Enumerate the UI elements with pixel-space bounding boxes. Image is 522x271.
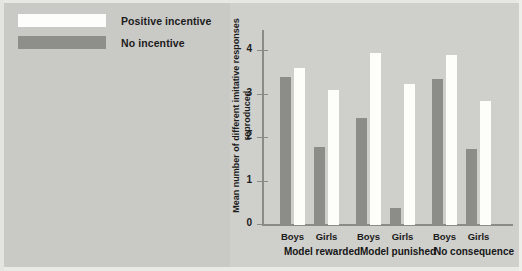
plot-area: 01234 BoysGirlsBoysGirlsBoysGirlsModel r…: [262, 30, 514, 226]
y-tick-mark: [257, 50, 268, 51]
legend-item-positive-incentive: Positive incentive: [18, 12, 228, 29]
bar-no-incentive: [432, 79, 443, 225]
bar-positive-incentive: [328, 90, 339, 225]
y-tick-mark: [257, 181, 268, 182]
legend-label-positive-incentive: Positive incentive: [121, 15, 212, 27]
chart-figure: Positive incentive No incentive Mean num…: [0, 0, 522, 271]
legend-swatch-positive-incentive: [18, 14, 106, 27]
bar-positive-incentive: [446, 55, 457, 225]
legend-item-no-incentive: No incentive: [18, 34, 228, 51]
page-edge-left: [0, 0, 4, 271]
x-group-label: No consequence: [419, 246, 522, 257]
y-axis-title-text: Mean number of different imitative respo…: [231, 0, 253, 231]
legend-label-no-incentive: No incentive: [121, 37, 185, 49]
y-tick-mark: [257, 94, 268, 95]
x-tick-label-girls: Girls: [382, 231, 423, 242]
y-tick-label: 4: [236, 43, 252, 54]
y-tick-mark: [257, 224, 268, 225]
bar-no-incentive: [280, 77, 291, 225]
bar-positive-incentive: [370, 53, 381, 225]
y-tick-label: 2: [236, 130, 252, 141]
bar-no-incentive: [356, 118, 367, 225]
bar-positive-incentive: [294, 68, 305, 225]
bar-positive-incentive: [480, 101, 491, 225]
y-tick-mark: [257, 137, 268, 138]
bar-no-incentive: [390, 208, 401, 225]
page-edge-bottom: [0, 267, 522, 271]
y-tick-label: 0: [236, 217, 252, 228]
bar-no-incentive: [466, 149, 477, 225]
y-axis-line: [262, 30, 264, 225]
y-tick-label: 3: [236, 87, 252, 98]
legend-swatch-no-incentive: [18, 36, 106, 49]
x-tick-label-girls: Girls: [306, 231, 347, 242]
bar-no-incentive: [314, 147, 325, 225]
x-tick-label-girls: Girls: [458, 231, 499, 242]
chart-legend: Positive incentive No incentive: [18, 12, 228, 56]
bar-positive-incentive: [404, 84, 415, 225]
y-tick-label: 1: [236, 174, 252, 185]
